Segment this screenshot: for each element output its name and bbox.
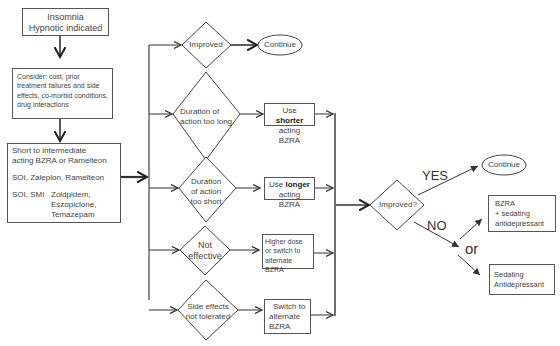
higher-dose-box: Higher dose or switch to alternate BZRA — [262, 234, 314, 269]
label-side-effects: Side effects not tolerated — [180, 302, 236, 322]
use-shorter-bold: shorter — [276, 116, 304, 125]
higher-dose-1: Higher dose — [265, 237, 311, 246]
label-duration-long-1: Duration of — [180, 107, 240, 117]
use-shorter-post: acting BZRA — [268, 126, 311, 146]
switch-2: alternate — [269, 312, 306, 322]
label-duration-long-2: action too long — [180, 117, 240, 127]
label-side-effects-2: not tolerated — [180, 312, 236, 322]
consider-box: Consider: cost, prior treatment failures… — [12, 68, 113, 119]
use-longer-post: acting BZRA — [268, 190, 311, 210]
use-longer-pre: Use — [269, 180, 285, 189]
continue-label-2: Continue — [482, 160, 526, 170]
use-shorter-box: Use shorter acting BZRA — [264, 103, 315, 126]
label-improved: Improved — [183, 40, 229, 50]
sedating-antidepressant-box: Sedating Antidepressant — [489, 264, 555, 295]
drug-eszopiclone: Eszopiclone, — [51, 200, 96, 210]
label-duration-long: Duration of action too long — [180, 107, 240, 127]
no-label: NO — [427, 218, 447, 234]
sedating-ad-2: Antidepressant — [494, 280, 550, 290]
treatment-soi-smi-label: SOI, SMI — [12, 190, 44, 199]
use-shorter-pre: Use — [282, 106, 296, 115]
bzra-ad-3: antidepressant — [495, 219, 549, 229]
use-longer-bold: longer — [286, 180, 310, 189]
final-improved-label: Improved? — [370, 200, 426, 210]
label-not-effective-1: Not — [182, 240, 228, 251]
drug-zolpidem: Zoldpidem, — [51, 190, 96, 200]
bzra-ad-1: BZRA — [495, 199, 549, 209]
bzra-antidepressant-box: BZRA + sedating antidepressant — [488, 195, 556, 232]
treatment-heading1: Short to intermediate — [12, 146, 116, 156]
bzra-ad-2: + sedating — [495, 209, 549, 219]
higher-dose-3: alternate BZRA — [265, 256, 311, 275]
start-box: Insomnia Hypnotic indicated — [22, 8, 109, 36]
label-duration-short-1: Duration — [183, 177, 229, 187]
start-line1: Insomnia — [23, 12, 108, 23]
sedating-ad-1: Sedating — [494, 270, 550, 280]
or-label: or — [465, 240, 478, 259]
switch-alternate-box: Switch to alternate BZRA — [264, 299, 311, 334]
treatment-heading2: acting BZRA or Ramelteon — [12, 156, 116, 166]
switch-1: Switch to — [269, 302, 306, 312]
continue-label-1: Continue — [258, 40, 302, 50]
label-not-effective: Not effective — [182, 240, 228, 263]
switch-3: BZRA — [269, 322, 306, 332]
start-line2: Hypnotic indicated — [23, 23, 108, 34]
yes-label: YES — [422, 168, 448, 184]
label-duration-short-2: of action — [183, 187, 229, 197]
consider-text: Consider: cost, prior treatment failures… — [17, 73, 108, 108]
label-side-effects-1: Side effects — [180, 302, 236, 312]
initial-treatment-box: Short to intermediate acting BZRA or Ram… — [7, 143, 121, 223]
label-duration-short: Duration of action too short — [183, 177, 229, 207]
higher-dose-2: or switch to — [265, 246, 311, 255]
label-not-effective-2: effective — [182, 251, 228, 262]
label-duration-short-3: too short — [183, 197, 229, 207]
use-longer-box: Use longer acting BZRA — [264, 177, 315, 200]
treatment-soi: SOI, Zaleplon, Ramelteon — [12, 173, 116, 183]
drug-temazepam: Temazepam — [51, 210, 96, 220]
